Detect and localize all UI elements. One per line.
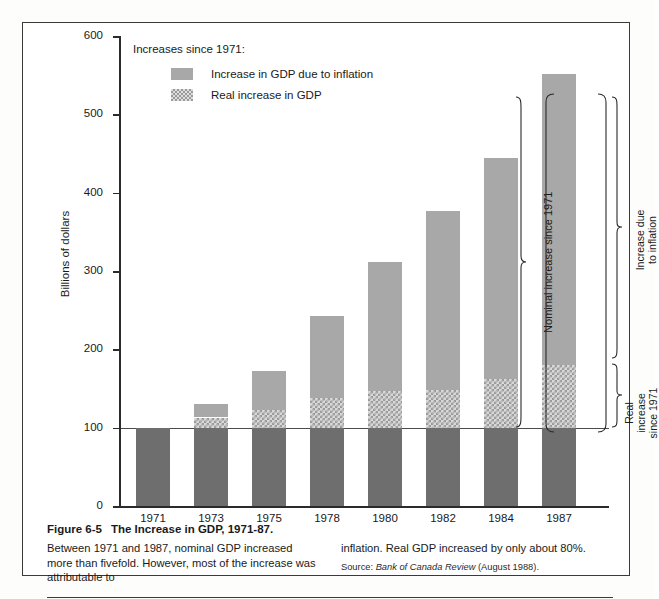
legend-label: Real increase in GDP bbox=[211, 89, 322, 101]
bar-segment-base bbox=[368, 428, 402, 506]
y-tick-label: 500 bbox=[63, 108, 103, 119]
nominal-increase-brace bbox=[515, 96, 527, 428]
legend-title: Increases since 1971: bbox=[133, 43, 373, 55]
inflation-label-line1: Increase due bbox=[634, 210, 646, 271]
bar-segment-inflation bbox=[252, 371, 286, 409]
y-axis-title: Billions of dollars bbox=[59, 184, 71, 324]
y-tick-600: 600 bbox=[23, 30, 119, 42]
bar-segment-base bbox=[484, 428, 518, 506]
figure-frame: Billions of dollars 600 500 400 300 200 bbox=[22, 22, 630, 576]
y-tick-label: 100 bbox=[63, 422, 103, 433]
y-tick-label: 0 bbox=[63, 500, 103, 511]
legend-label: Increase in GDP due to inflation bbox=[211, 68, 373, 80]
bar-1987-outer-bracket bbox=[545, 93, 607, 433]
y-tick-mark bbox=[113, 193, 121, 195]
bar-segment-base bbox=[194, 428, 228, 506]
chart-plot-area: Billions of dollars 600 500 400 300 200 bbox=[23, 23, 631, 577]
y-tick-mark bbox=[113, 271, 121, 273]
y-tick-400: 400 bbox=[23, 187, 119, 199]
real-increase-label: Real increase since 1971 bbox=[623, 343, 659, 483]
increase-due-to-inflation-label: Increase due to inflation bbox=[634, 175, 658, 305]
x-axis-line bbox=[119, 506, 609, 508]
bar-segment-base bbox=[252, 428, 286, 506]
chart-legend: Increases since 1971: Increase in GDP du… bbox=[133, 43, 373, 110]
real-label-line1: Real bbox=[623, 402, 635, 424]
legend-item-inflation: Increase in GDP due to inflation bbox=[133, 68, 373, 80]
bar-1980 bbox=[368, 262, 402, 506]
real-label-line3: since 1971 bbox=[647, 388, 659, 439]
inflation-label-line2: to inflation bbox=[646, 216, 658, 264]
y-tick-500: 500 bbox=[23, 108, 119, 120]
y-tick-mark bbox=[113, 349, 121, 351]
source-prefix: Source: bbox=[341, 562, 373, 572]
caption-column-left: Between 1971 and 1987, nominal GDP incre… bbox=[47, 541, 319, 585]
bar-segment-real-increase bbox=[310, 398, 344, 428]
increase-due-to-inflation-brace bbox=[611, 96, 623, 359]
y-tick-0: 0 bbox=[23, 500, 119, 512]
caption-column-right: inflation. Real GDP increased by only ab… bbox=[341, 541, 613, 585]
y-tick-mark bbox=[113, 114, 121, 116]
caption-title-row: Figure 6-5The Increase in GDP, 1971-87. bbox=[47, 523, 613, 535]
bar-segment-inflation bbox=[310, 316, 344, 397]
bar-segment-base bbox=[310, 428, 344, 506]
source-suffix: (August 1988). bbox=[478, 562, 539, 572]
figure-number: Figure 6-5 bbox=[47, 523, 102, 535]
bar-segment-real-increase bbox=[368, 391, 402, 428]
reference-line-100 bbox=[119, 428, 609, 429]
bar-segment-base bbox=[136, 428, 170, 506]
bar-segment-inflation bbox=[426, 211, 460, 390]
bar-segment-base bbox=[542, 428, 576, 506]
caption-bottom-rule bbox=[47, 597, 613, 598]
bar-1975 bbox=[252, 371, 286, 506]
y-tick-label: 300 bbox=[63, 265, 103, 276]
bar-segment-real-increase bbox=[194, 418, 228, 428]
figure-caption: Figure 6-5The Increase in GDP, 1971-87. … bbox=[47, 523, 613, 585]
bar-1982 bbox=[426, 211, 460, 506]
legend-swatch-real-icon bbox=[171, 89, 193, 101]
bar-segment-real-increase bbox=[252, 410, 286, 428]
real-label-line2: increase bbox=[635, 393, 647, 433]
y-tick-300: 300 bbox=[23, 265, 119, 277]
y-tick-label: 600 bbox=[63, 30, 103, 41]
y-tick-label: 400 bbox=[63, 187, 103, 198]
real-increase-brace bbox=[611, 363, 623, 429]
caption-body-left: Between 1971 and 1987, nominal GDP incre… bbox=[47, 541, 319, 585]
legend-swatch-inflation-icon bbox=[171, 68, 193, 80]
caption-columns: Between 1971 and 1987, nominal GDP incre… bbox=[47, 541, 613, 585]
bar-segment-base bbox=[426, 428, 460, 506]
bar-segment-inflation bbox=[484, 158, 518, 379]
bar-segment-real-increase bbox=[484, 379, 518, 428]
y-tick-mark bbox=[113, 36, 121, 38]
source-publication: Bank of Canada Review bbox=[376, 562, 476, 572]
bar-segment-inflation bbox=[194, 404, 228, 417]
y-tick-100: 100 bbox=[23, 422, 119, 434]
bar-segment-real-increase bbox=[426, 390, 460, 428]
bar-1978 bbox=[310, 316, 344, 506]
caption-source: Source: Bank of Canada Review (August 19… bbox=[341, 561, 613, 573]
figure-title: The Increase in GDP, 1971-87. bbox=[111, 523, 273, 535]
y-tick-mark bbox=[113, 428, 121, 430]
bar-1973 bbox=[194, 404, 228, 506]
bar-1971 bbox=[136, 428, 170, 506]
y-tick-mark bbox=[113, 506, 121, 508]
bar-1984 bbox=[484, 158, 518, 506]
bar-segment-inflation bbox=[368, 262, 402, 391]
y-tick-200: 200 bbox=[23, 343, 119, 355]
y-tick-label: 200 bbox=[63, 343, 103, 354]
legend-item-real: Real increase in GDP bbox=[133, 89, 373, 101]
caption-body-right: inflation. Real GDP increased by only ab… bbox=[341, 541, 613, 556]
